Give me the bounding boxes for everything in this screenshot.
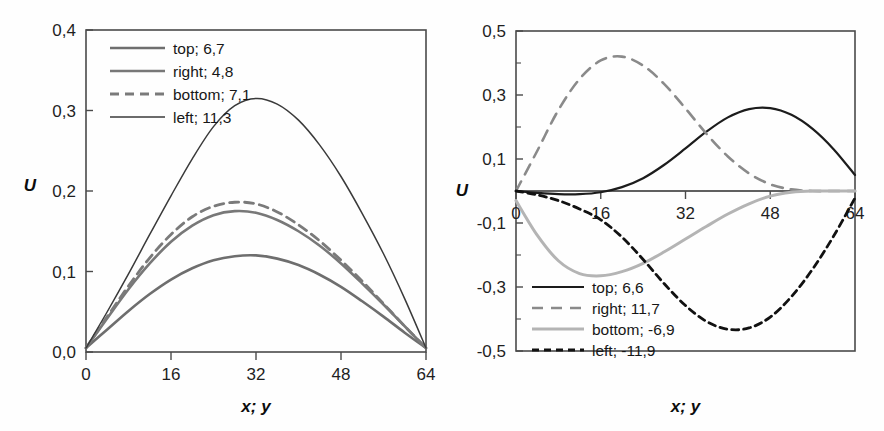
x-tick-label-2: 32 — [676, 204, 695, 223]
legend-label-1: right; 11,7 — [592, 300, 660, 317]
y-tick-label-5: 0,5 — [482, 22, 506, 41]
legend-label-0: top; 6,6 — [592, 279, 644, 296]
y-tick-label-3: 0,1 — [482, 150, 506, 169]
x-tick-label-3: 48 — [332, 365, 351, 384]
chart-panel-left: 0,00,10,20,30,4016324864Ux; ytop; 6,7rig… — [0, 0, 442, 431]
x-tick-label-4: 64 — [417, 365, 436, 384]
legend-label-3: left; 11,3 — [173, 109, 231, 126]
legend-label-3: left; -11,9 — [592, 342, 655, 359]
legend-label-2: bottom; -6,9 — [592, 321, 675, 338]
y-axis-title: U — [456, 181, 469, 200]
x-axis-title: x; y — [670, 397, 702, 416]
y-tick-label-3: 0,3 — [52, 102, 76, 121]
y-tick-label-1: 0,1 — [52, 263, 76, 282]
legend-label-0: top; 6,7 — [173, 40, 225, 57]
series-curve-1 — [86, 211, 426, 348]
y-tick-label-1: -0,3 — [477, 278, 506, 297]
x-tick-label-2: 32 — [247, 365, 266, 384]
left-chart-svg: 0,00,10,20,30,4016324864Ux; ytop; 6,7rig… — [0, 0, 442, 431]
y-tick-label-0: 0,0 — [52, 343, 76, 362]
chart-panel-right: -0,5-0,3-0,10,10,30,5016324864Ux; ytop; … — [442, 0, 884, 431]
x-tick-label-4: 64 — [846, 204, 865, 223]
series-curve-2 — [86, 202, 426, 348]
x-tick-label-0: 0 — [81, 365, 90, 384]
right-chart-svg: -0,5-0,3-0,10,10,30,5016324864Ux; ytop; … — [442, 0, 884, 431]
x-tick-label-1: 16 — [162, 365, 181, 384]
legend-label-1: right; 4,8 — [173, 63, 233, 80]
legend-label-2: bottom; 7,1 — [173, 86, 251, 103]
y-tick-label-0: -0,5 — [477, 342, 506, 361]
y-axis-title: U — [24, 176, 37, 195]
y-tick-label-2: 0,2 — [52, 182, 76, 201]
x-axis-title: x; y — [240, 397, 272, 416]
series-curve-0 — [516, 108, 855, 195]
figure-root: 0,00,10,20,30,4016324864Ux; ytop; 6,7rig… — [0, 0, 884, 431]
series-curve-0 — [86, 255, 426, 348]
x-tick-label-3: 48 — [761, 204, 780, 223]
y-tick-label-2: -0,1 — [477, 214, 506, 233]
y-tick-label-4: 0,4 — [52, 21, 76, 40]
y-tick-label-4: 0,3 — [482, 86, 506, 105]
